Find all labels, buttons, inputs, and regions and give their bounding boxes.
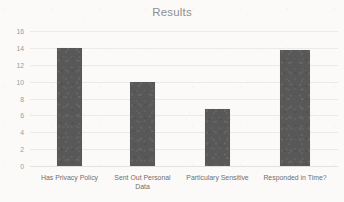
y-axis-tick-label: 0 [20,163,24,170]
y-axis-tick-label: 2 [20,146,24,153]
plot-area: 0246810121416 [30,31,338,166]
bar [280,50,310,166]
y-axis-tick-label: 14 [16,44,24,51]
x-axis-category-label: Responded in Time? [259,173,331,182]
y-axis-tick-label: 10 [16,78,24,85]
chart-title: Results [0,5,344,20]
y-axis-tick-label: 4 [20,129,24,136]
gridline [30,31,338,32]
x-axis-category-label: Particulary Sensitive [182,173,254,182]
bar [130,82,155,166]
x-axis-category-label: Has Privacy Policy [34,173,106,182]
bar [57,48,82,166]
bar-chart-figure: Results 0246810121416 Has Privacy Policy… [0,0,344,202]
y-axis-tick-label: 8 [20,95,24,102]
x-axis-category-label: Sent Out Personal Data [107,173,179,191]
gridline [30,166,338,167]
y-axis-tick-label: 12 [16,61,24,68]
y-axis-tick-label: 16 [16,28,24,35]
y-axis-tick-label: 6 [20,112,24,119]
bar [205,109,230,166]
